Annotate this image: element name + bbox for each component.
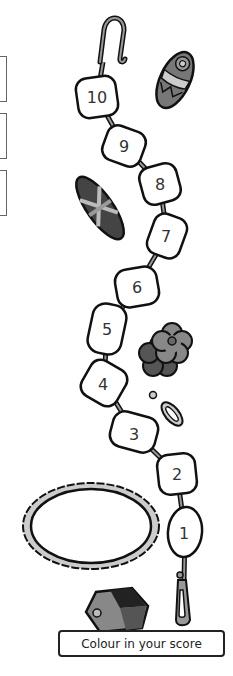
caption-box: Colour in your score (58, 630, 225, 657)
bead-7-label: 7 (161, 227, 171, 246)
scalloped-frame-icon (23, 483, 159, 569)
hexagon-bead-icon (86, 588, 148, 632)
flower-bead-icon (139, 323, 192, 376)
bead-2-label: 2 (172, 465, 182, 484)
crisscross-bead-icon (68, 170, 132, 246)
clasp-icon (176, 572, 190, 625)
caption-text: Colour in your score (81, 637, 202, 651)
bead-8-label: 8 (155, 175, 165, 194)
bead-4-label: 4 (98, 375, 108, 394)
bead-6-label: 6 (132, 278, 142, 297)
bead-1-label: 1 (179, 524, 189, 543)
striped-bead-icon (149, 46, 202, 113)
bead-10-label: 10 (87, 88, 107, 107)
hook-icon (100, 18, 125, 62)
bead-3-label: 3 (129, 425, 139, 444)
bracelet-illustration: 10 9 8 7 6 5 4 3 2 1 (0, 0, 233, 676)
bead-9-label: 9 (119, 137, 129, 156)
bead-5-label: 5 (102, 320, 112, 339)
